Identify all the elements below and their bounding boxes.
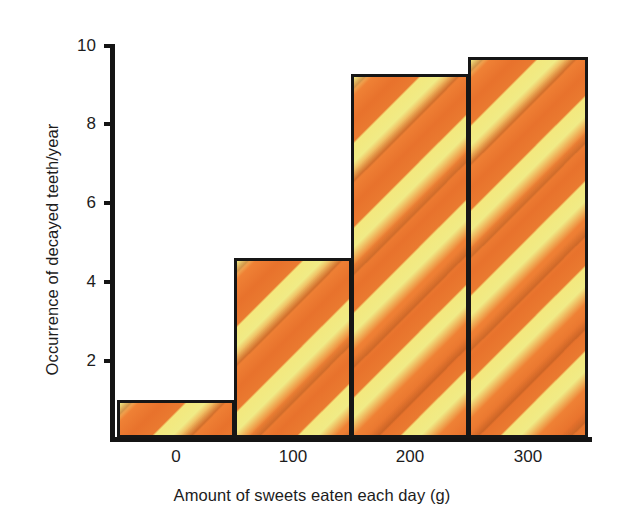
bar-300 [468,57,588,438]
bar-200 [351,74,469,438]
y-tick-mark-8 [104,122,115,126]
y-axis-line [110,44,115,442]
y-tick-label-10: 10 [52,36,96,56]
x-tick-label-300: 300 [469,447,587,467]
y-tick-label-6: 6 [52,193,96,213]
y-axis-title: Occurrence of decayed teeth/year [43,50,62,450]
x-tick-label-0: 0 [117,447,235,467]
bar-100 [234,258,352,438]
y-tick-mark-4 [104,280,115,284]
y-tick-label-2: 2 [52,351,96,371]
histogram-figure: Occurrence of decayed teeth/year 10 8 6 … [0,0,624,512]
x-tick-label-100: 100 [234,447,352,467]
bar-0 [117,400,235,438]
y-tick-label-8: 8 [52,114,96,134]
x-tick-label-200: 200 [351,447,469,467]
y-tick-mark-10 [104,44,115,48]
x-axis-title: Amount of sweets eaten each day (g) [0,486,624,505]
y-tick-mark-6 [104,201,115,205]
y-tick-label-4: 4 [52,272,96,292]
plot-area [117,44,588,438]
y-tick-mark-2 [104,359,115,363]
